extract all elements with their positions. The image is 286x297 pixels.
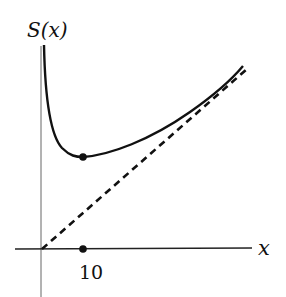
asymptote-dashed-line bbox=[42, 69, 247, 249]
x-tick-label: 10 bbox=[79, 263, 103, 282]
s-curve bbox=[44, 45, 243, 157]
y-axis-label: S(x) bbox=[27, 20, 68, 40]
x-tick-point bbox=[79, 245, 87, 253]
minimum-point bbox=[79, 153, 87, 161]
x-axis-label: x bbox=[258, 238, 270, 259]
x-axis bbox=[15, 248, 252, 249]
diagram-canvas bbox=[0, 0, 286, 297]
diagram: S(x) x 10 bbox=[0, 0, 286, 297]
